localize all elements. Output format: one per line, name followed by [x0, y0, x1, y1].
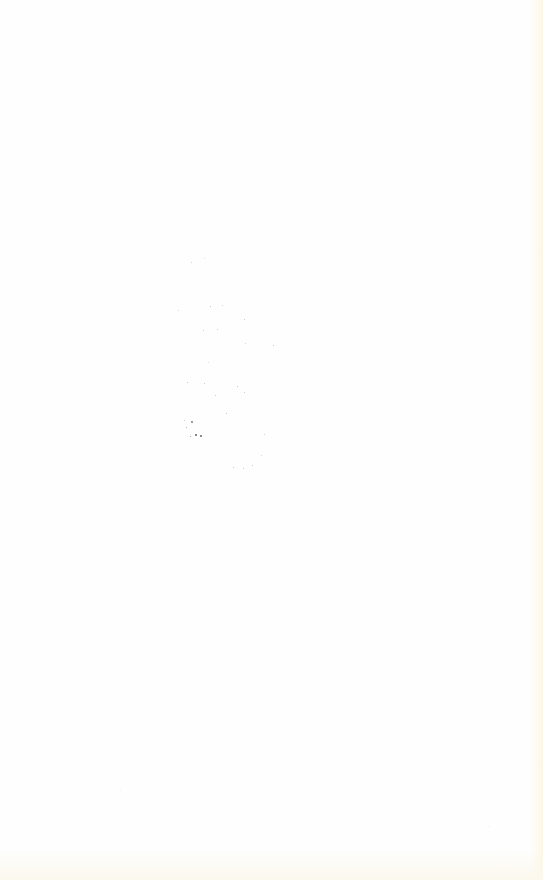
scan-speck	[488, 826, 489, 827]
scan-speck	[222, 305, 223, 306]
scan-speck	[215, 395, 216, 396]
scan-noise-specks	[0, 0, 543, 880]
scan-speck	[195, 434, 197, 436]
scan-speck	[204, 258, 205, 259]
scan-speck	[200, 435, 202, 437]
scan-speck	[226, 413, 227, 414]
blank-page	[0, 0, 543, 880]
scan-speck	[261, 455, 262, 456]
scan-speck	[208, 362, 209, 363]
scan-speck	[120, 790, 121, 791]
scan-speck	[245, 343, 246, 344]
scan-speck	[204, 383, 205, 384]
scan-speck	[210, 306, 211, 307]
scan-speck	[186, 427, 187, 428]
scan-speck	[217, 329, 218, 330]
scan-speck	[187, 382, 188, 383]
scan-speck	[233, 467, 234, 468]
scan-speck	[178, 310, 179, 311]
scan-speck	[190, 436, 191, 437]
scan-speck	[184, 420, 185, 421]
scan-speck	[264, 434, 265, 435]
scan-speck	[203, 330, 204, 331]
scan-speck	[273, 345, 274, 346]
page-edge-tint-right	[529, 0, 543, 880]
scan-speck	[243, 468, 244, 469]
scan-speck	[244, 392, 245, 393]
scan-speck	[191, 421, 193, 423]
scan-speck	[237, 386, 238, 387]
scan-speck	[252, 465, 253, 466]
scan-speck	[244, 319, 245, 320]
scan-speck	[191, 262, 192, 263]
page-edge-tint-bottom	[0, 850, 543, 880]
